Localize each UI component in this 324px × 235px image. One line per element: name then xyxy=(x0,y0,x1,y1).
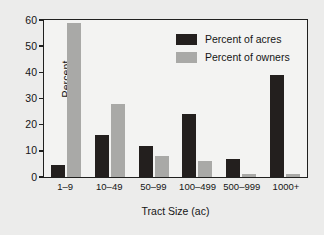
bar-acres xyxy=(270,75,284,177)
chart-legend: Percent of acresPercent of owners xyxy=(176,33,290,63)
y-tick-label: 60 xyxy=(25,13,37,28)
y-tick-label: 50 xyxy=(25,39,37,54)
bar-acres xyxy=(139,146,153,177)
y-tick-label: 30 xyxy=(25,91,37,106)
bar-group xyxy=(44,20,88,177)
bar-owners xyxy=(67,23,81,177)
y-tick-label: 40 xyxy=(25,65,37,80)
bar-owners xyxy=(111,104,125,177)
bar-acres xyxy=(51,165,65,177)
x-tick-label: 100–499 xyxy=(176,181,220,197)
x-axis-title: Tract Size (ac) xyxy=(43,205,308,217)
bar-owners xyxy=(198,161,212,177)
bar-group xyxy=(88,20,132,177)
y-tick-label: 10 xyxy=(25,143,37,158)
legend-entry: Percent of owners xyxy=(176,51,290,63)
bar-acres xyxy=(95,135,109,177)
legend-swatch-acres xyxy=(176,34,197,45)
x-axis-ticks: 1–910–4950–99100–499500–9991000+ xyxy=(43,181,308,197)
x-tick-label: 1–9 xyxy=(43,181,87,197)
bar-owners xyxy=(242,174,256,177)
chart-figure: Percent 0102030405060 Percent of acresPe… xyxy=(0,0,324,235)
x-tick-label: 10–49 xyxy=(87,181,131,197)
legend-entry: Percent of acres xyxy=(176,33,290,45)
x-tick-label: 500–999 xyxy=(220,181,264,197)
legend-label: Percent of owners xyxy=(205,51,290,63)
bar-owners xyxy=(155,156,169,177)
x-tick-label: 1000+ xyxy=(264,181,308,197)
y-tick-label: 20 xyxy=(25,117,37,132)
y-tick-label: 0 xyxy=(31,170,37,185)
bar-acres xyxy=(182,114,196,177)
bar-owners xyxy=(286,174,300,177)
bar-acres xyxy=(226,159,240,177)
plot-frame: Percent 0102030405060 Percent of acresPe… xyxy=(43,19,308,178)
x-tick-label: 50–99 xyxy=(131,181,175,197)
legend-label: Percent of acres xyxy=(205,33,281,45)
bar-group xyxy=(132,20,176,177)
legend-swatch-owners xyxy=(176,52,197,63)
